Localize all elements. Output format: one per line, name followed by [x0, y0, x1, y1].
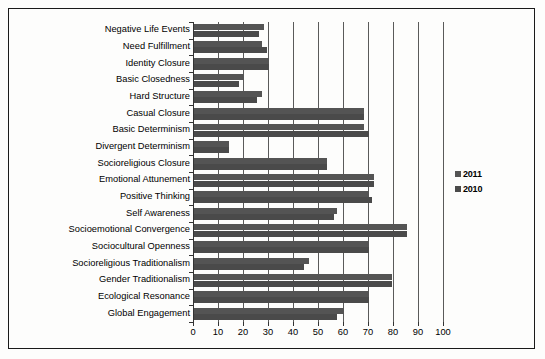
y-axis-tick	[189, 172, 193, 173]
bar-2010	[194, 297, 369, 303]
category-label: Divergent Determinism	[30, 141, 190, 151]
category-label: Socioemotional Convergence	[30, 224, 190, 234]
x-gridline	[443, 22, 444, 322]
y-axis-tick	[189, 122, 193, 123]
bar-2010	[194, 197, 372, 203]
category-label-list: Negative Life EventsNeed FulfillmentIden…	[30, 22, 190, 322]
x-axis-tick	[418, 322, 419, 326]
category-label: Identity Closure	[30, 58, 190, 68]
legend-swatch-icon	[455, 186, 461, 192]
category-label: Emotional Attunement	[30, 174, 190, 184]
y-axis-tick	[189, 105, 193, 106]
category-label: Need Fulfillment	[30, 41, 190, 51]
y-axis-tick	[189, 205, 193, 206]
x-axis-tick	[393, 322, 394, 326]
category-label: Hard Structure	[30, 91, 190, 101]
bar-2010	[194, 264, 304, 270]
x-axis-tick	[318, 322, 319, 326]
bar-2011	[194, 141, 229, 147]
y-axis-tick	[189, 155, 193, 156]
category-label: Gender Traditionalism	[30, 274, 190, 284]
y-axis-tick	[189, 305, 193, 306]
bar-2010	[194, 164, 327, 170]
y-axis-tick	[189, 89, 193, 90]
bar-2011	[194, 174, 374, 180]
y-axis-tick	[189, 72, 193, 73]
y-axis-tick	[189, 22, 193, 23]
bar-2010	[194, 114, 364, 120]
bar-2010	[194, 314, 337, 320]
x-axis-tick	[268, 322, 269, 326]
bar-2010	[194, 214, 334, 220]
bar-2011	[194, 74, 244, 80]
legend-label: 2010	[463, 184, 482, 194]
category-label: Ecological Resonance	[30, 291, 190, 301]
bar-2010	[194, 147, 229, 153]
bar-2010	[194, 247, 369, 253]
plot-area: 0102030405060708090100	[193, 22, 443, 322]
bar-2010	[194, 131, 369, 137]
y-axis-tick	[189, 289, 193, 290]
bar-chart: Negative Life EventsNeed FulfillmentIden…	[0, 0, 545, 359]
bar-2010	[194, 64, 269, 70]
category-label: Positive Thinking	[30, 191, 190, 201]
category-label: Socioreligious Closure	[30, 158, 190, 168]
bar-2010	[194, 181, 374, 187]
x-axis-tick-label: 100	[428, 327, 458, 337]
bar-2011	[194, 208, 337, 214]
y-axis-tick	[189, 55, 193, 56]
bar-2011	[194, 274, 392, 280]
bar-2010	[194, 47, 267, 53]
bar-2011	[194, 308, 344, 314]
category-label: Basic Closedness	[30, 74, 190, 84]
bar-2011	[194, 91, 262, 97]
y-axis-tick	[189, 239, 193, 240]
bar-2011	[194, 124, 364, 130]
bar-2011	[194, 158, 327, 164]
x-gridline	[418, 22, 419, 322]
bar-2011	[194, 258, 309, 264]
x-axis-tick	[443, 322, 444, 326]
bar-2011	[194, 41, 262, 47]
bar-2011	[194, 191, 369, 197]
bar-2011	[194, 108, 364, 114]
category-label: Sociocultural Openness	[30, 241, 190, 251]
legend-item: 2010	[455, 181, 482, 196]
legend-label: 2011	[463, 169, 482, 179]
bar-2010	[194, 97, 257, 103]
category-label: Socioreligious Traditionalism	[30, 258, 190, 268]
category-label: Negative Life Events	[30, 24, 190, 34]
legend-item: 2011	[455, 166, 482, 181]
x-axis-tick	[293, 322, 294, 326]
y-axis-tick	[189, 272, 193, 273]
bar-2011	[194, 58, 269, 64]
x-axis-tick	[343, 322, 344, 326]
bar-2010	[194, 281, 392, 287]
x-axis-tick	[218, 322, 219, 326]
y-axis-tick	[189, 255, 193, 256]
y-axis-tick	[189, 189, 193, 190]
x-axis-tick	[193, 322, 194, 326]
y-axis-tick	[189, 222, 193, 223]
bar-2010	[194, 231, 407, 237]
bar-2011	[194, 224, 407, 230]
bar-2011	[194, 241, 369, 247]
bar-2010	[194, 31, 259, 37]
bar-2010	[194, 81, 239, 87]
category-label: Casual Closure	[30, 108, 190, 118]
bar-2011	[194, 291, 369, 297]
category-label: Basic Determinism	[30, 124, 190, 134]
chart-legend: 20112010	[455, 166, 482, 196]
bar-2011	[194, 24, 264, 30]
y-axis-tick	[189, 39, 193, 40]
y-axis-tick	[189, 139, 193, 140]
y-axis-tick	[189, 322, 193, 323]
category-label: Self Awareness	[30, 208, 190, 218]
x-gridline	[393, 22, 394, 322]
legend-swatch-icon	[455, 171, 461, 177]
x-axis-tick	[243, 322, 244, 326]
x-axis-tick	[368, 322, 369, 326]
category-label: Global Engagement	[30, 308, 190, 318]
